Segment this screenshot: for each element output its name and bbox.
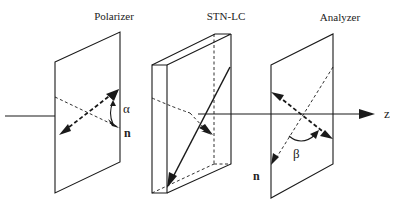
polarizer-label: Polarizer — [94, 10, 134, 22]
stn-exit-director — [173, 67, 230, 177]
stn-front-face — [152, 65, 167, 193]
stn-entrance-director — [152, 98, 190, 113]
alpha-arc-arrowhead-icon — [110, 100, 116, 106]
z-axis-label: z — [384, 106, 390, 121]
analyzer: Analyzer β n — [253, 11, 360, 198]
stn-entrance-arrowhead-fill-icon — [199, 124, 213, 135]
alpha-symbol: α — [123, 101, 130, 116]
analyzer-label: Analyzer — [320, 11, 361, 23]
polarizer: Polarizer α n — [55, 10, 134, 193]
stn-exit-arrowhead-icon — [167, 172, 177, 188]
stn-lc-label: STN-LC — [207, 10, 246, 22]
analyzer-axis-arrowhead-left-icon — [271, 92, 284, 101]
stn-lc-optical-diagram: Polarizer α n STN-LC — [0, 0, 400, 203]
polarizer-director-n: n — [124, 126, 131, 140]
polarizer-axis-arrowhead-left-icon — [59, 124, 71, 135]
analyzer-axis-line — [278, 96, 326, 134]
analyzer-director-n: n — [253, 169, 260, 183]
analyzer-ref-arrowhead-icon — [271, 153, 279, 165]
stn-hidden-bottom-edge — [152, 164, 214, 193]
stn-lc-cell: STN-LC — [152, 10, 245, 193]
beta-symbol: β — [293, 146, 300, 161]
stn-top-face — [152, 34, 231, 65]
analyzer-axis-arrowhead-right-icon — [320, 130, 333, 139]
polarizer-axis-arrowhead-right-fill-icon — [106, 89, 119, 100]
z-axis-arrowhead-icon — [359, 109, 375, 119]
polarizer-axis-line — [64, 94, 112, 131]
